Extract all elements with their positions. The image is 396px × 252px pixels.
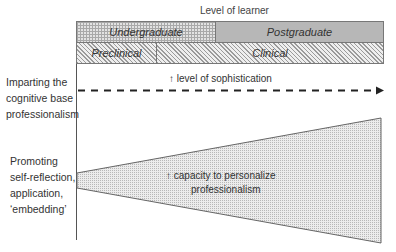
row-label-self-reflection: Promoting self-reflection, application, … [10,153,75,217]
arrowhead-icon [376,87,384,95]
label-line: ‘embedding’ [10,201,75,217]
personalize-text-line1: capacity to personalize [174,170,276,181]
sophistication-annotation: ↑ level of sophistication [169,73,272,84]
label-line: self-reflection, [10,169,75,185]
label-line: application, [10,185,75,201]
label-line: Imparting the [6,74,79,90]
label-line: Promoting [10,153,75,169]
label-line: cognitive base [6,90,79,106]
personalize-text-line2: professionalism [191,184,260,195]
row-label-cognitive: Imparting the cognitive base professiona… [6,74,79,122]
up-arrow-icon: ↑ [169,73,174,84]
personalize-annotation: ↑ capacity to personalize professionalis… [166,169,276,197]
sophistication-text: level of sophistication [177,73,272,84]
up-arrow-icon: ↑ [166,170,171,181]
label-line: professionalism [6,106,79,122]
